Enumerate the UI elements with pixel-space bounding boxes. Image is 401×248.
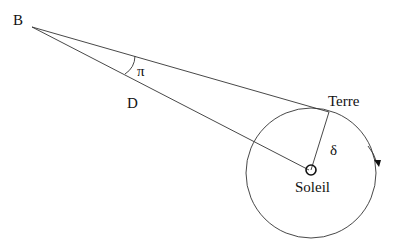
label-star: B [13, 12, 23, 28]
label-sun: Soleil [295, 179, 330, 195]
parallax-diagram: B π D Terre δ Soleil [0, 0, 401, 248]
earth-orbit [246, 108, 376, 238]
label-radius: δ [330, 142, 337, 158]
orbit-radius-line [311, 112, 329, 170]
label-angle: π [137, 63, 145, 79]
line-star-to-earth [32, 27, 329, 112]
label-earth: Terre [328, 93, 360, 109]
parallax-angle-arc [125, 56, 135, 74]
label-distance: D [127, 95, 138, 111]
line-star-to-sun [32, 27, 309, 170]
